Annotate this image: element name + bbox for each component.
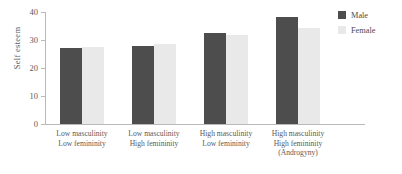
bar-male-3 (276, 17, 298, 124)
bar-male-1 (132, 46, 154, 124)
legend-item-female: Female (338, 24, 375, 36)
legend-label-male: Male (351, 11, 368, 20)
bar-female-2 (226, 35, 248, 124)
y-tick-0 (41, 124, 46, 125)
y-tick-label-0: 0 (0, 120, 38, 129)
bar-male-0 (60, 48, 82, 124)
bar-female-3 (298, 28, 320, 124)
category-label-3-line-2: (Androgyny) (252, 148, 344, 158)
y-tick-label-20: 20 (0, 64, 38, 73)
category-label-3: High masculinity High femininity (Androg… (252, 129, 344, 158)
category-label-3-line-0: High masculinity (252, 129, 344, 139)
legend: Male Female (338, 9, 375, 39)
legend-item-male: Male (338, 9, 375, 21)
category-label-3-line-1: High femininity (252, 139, 344, 149)
legend-swatch-male-icon (338, 11, 346, 19)
y-tick-label-10: 10 (0, 92, 38, 101)
x-axis-line (45, 124, 365, 125)
bar-female-0 (82, 47, 104, 124)
plot-area (46, 12, 365, 124)
y-tick-label-40: 40 (0, 8, 38, 17)
legend-swatch-female-icon (338, 26, 346, 34)
bar-male-2 (204, 33, 226, 124)
legend-label-female: Female (351, 26, 375, 35)
bar-chart: Self esteem 40 30 20 10 0 Low masculinit (0, 0, 402, 174)
bar-female-1 (154, 44, 176, 124)
y-tick-label-30: 30 (0, 36, 38, 45)
